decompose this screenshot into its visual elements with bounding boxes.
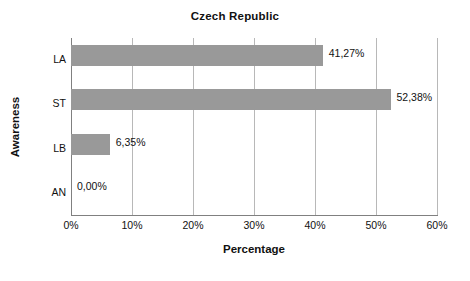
x-axis-line — [71, 215, 438, 216]
bar-value-label-lb: 6,35% — [116, 136, 146, 148]
y-axis-title: Awareness — [4, 62, 26, 192]
bar-chart: Czech Republic Awareness 41,27%52,38%6,3… — [0, 0, 470, 281]
x-tick-label: 30% — [232, 219, 276, 231]
x-tick-label: 0% — [49, 219, 93, 231]
x-axis-title: Percentage — [71, 243, 437, 255]
bar-value-label-la: 41,27% — [329, 47, 365, 59]
y-tick-label-st: ST — [28, 97, 66, 109]
x-tick-label: 50% — [354, 219, 398, 231]
category-band: 6,35% — [71, 127, 437, 171]
y-tick-label-la: LA — [28, 53, 66, 65]
bar-la — [71, 45, 323, 66]
category-band: 52,38% — [71, 82, 437, 126]
category-band: 41,27% — [71, 38, 437, 82]
bar-value-label-an: 0,00% — [77, 180, 107, 192]
x-tick-label: 10% — [110, 219, 154, 231]
chart-title: Czech Republic — [0, 10, 470, 22]
gridline-60pct — [437, 38, 438, 215]
plot-area: 41,27%52,38%6,35%0,00% — [71, 38, 437, 215]
bar-lb — [71, 134, 110, 155]
bar-st — [71, 89, 391, 110]
x-tick-label: 20% — [171, 219, 215, 231]
category-band: 0,00% — [71, 171, 437, 215]
y-tick-label-an: AN — [28, 186, 66, 198]
y-tick-label-lb: LB — [28, 142, 66, 154]
y-axis-title-text: Awareness — [9, 97, 21, 158]
x-tick-label: 60% — [415, 219, 459, 231]
x-tick-label: 40% — [293, 219, 337, 231]
bar-value-label-st: 52,38% — [397, 91, 433, 103]
